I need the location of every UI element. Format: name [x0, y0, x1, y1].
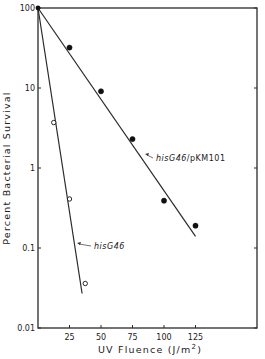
filled-data-point — [67, 45, 72, 50]
open-data-point — [83, 281, 87, 285]
x-tick-label: 100 — [156, 333, 171, 342]
filled-data-point — [193, 223, 198, 228]
y-tick-label: 100 — [20, 4, 35, 13]
x-tick-label: 25 — [64, 333, 74, 342]
x-axis-title: UV Fluence (J/m2) — [98, 343, 202, 355]
series-label: hisG46 — [94, 242, 125, 251]
series-label: hisG46/pKM101 — [156, 154, 226, 163]
y-tick-label: 1 — [30, 164, 35, 173]
y-axis-title: Percent Bacterial Survival — [1, 91, 12, 244]
y-tick-label: 0.1 — [22, 244, 35, 253]
annotation-arrow — [79, 244, 91, 246]
y-axis-ticks: 1001010.10.01 — [17, 4, 257, 333]
filled-data-point — [130, 136, 135, 141]
fit-line-hisg46 — [38, 8, 82, 293]
filled-data-point — [98, 89, 103, 94]
origin-data-point — [36, 6, 41, 11]
y-tick-label: 0.01 — [17, 324, 35, 333]
filled-data-point — [161, 198, 166, 203]
x-tick-label: 50 — [96, 333, 106, 342]
survival-chart: 1001010.10.01 255075100125 hisG46/pKM101… — [0, 0, 265, 359]
series-annotations: hisG46/pKM101hisG46 — [77, 153, 226, 251]
x-tick-label: 75 — [127, 333, 137, 342]
open-data-point — [67, 197, 71, 201]
x-tick-label: 125 — [188, 333, 203, 342]
fit-line-hisg46-pkm101 — [38, 8, 196, 236]
y-tick-label: 10 — [25, 84, 35, 93]
open-data-point — [52, 120, 56, 124]
